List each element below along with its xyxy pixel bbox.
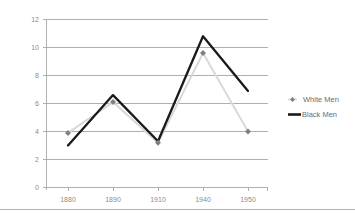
x-axis-labels: 1880 1890 1910 1940 1950 [60, 196, 256, 203]
x-tick-label-1940: 1940 [195, 196, 211, 203]
y-tick-label-12: 12 [31, 16, 39, 23]
y-tick-label-6: 6 [35, 100, 39, 107]
y-tick-label-2: 2 [35, 156, 39, 163]
y-tick-label-10: 10 [31, 44, 39, 51]
x-axis-ticks [69, 188, 268, 192]
legend-item-white-men[interactable]: White Men [288, 95, 339, 104]
y-axis-labels: 12 10 8 6 4 2 0 [31, 16, 39, 191]
line-chart: 12 10 8 6 4 2 0 1880 1890 1910 1940 1950 [0, 0, 355, 221]
x-tick-label-1890: 1890 [105, 196, 121, 203]
series-line-black-men [68, 36, 248, 145]
chart-container: 12 10 8 6 4 2 0 1880 1890 1910 1940 1950 [0, 0, 355, 221]
legend: White Men Black Men [288, 95, 339, 119]
x-tick-label-1950: 1950 [240, 196, 256, 203]
legend-item-black-men[interactable]: Black Men [288, 110, 337, 119]
y-tick-label-0: 0 [35, 184, 39, 191]
y-axis-ticks [43, 20, 46, 188]
y-tick-label-4: 4 [35, 128, 39, 135]
x-tick-label-1880: 1880 [60, 196, 76, 203]
y-tick-label-8: 8 [35, 72, 39, 79]
gridlines [46, 20, 268, 188]
x-tick-label-1910: 1910 [150, 196, 166, 203]
legend-label-white-men: White Men [303, 95, 339, 104]
series-line-white-men [68, 53, 248, 143]
legend-label-black-men: Black Men [302, 110, 337, 119]
legend-marker-diamond-icon [290, 97, 295, 102]
